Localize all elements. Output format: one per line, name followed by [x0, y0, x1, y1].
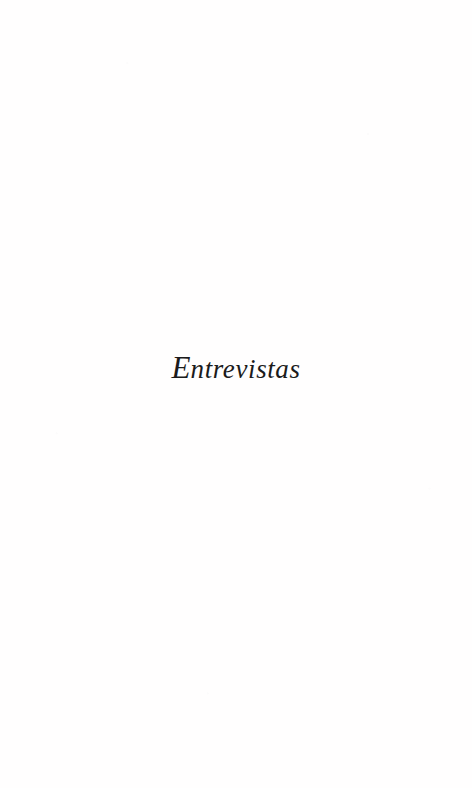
section-divider-block: Entrevistas — [0, 352, 472, 385]
page-title-initial: E — [171, 350, 190, 385]
book-page: Entrevistas — [0, 0, 472, 788]
page-title-remainder: ntrevistas — [191, 354, 301, 384]
page-title: Entrevistas — [171, 352, 300, 385]
